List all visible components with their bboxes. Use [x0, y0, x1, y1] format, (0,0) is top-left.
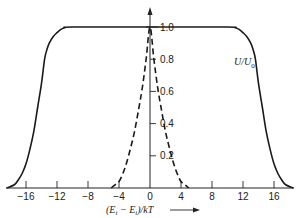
y-tick-label: 0.8 — [160, 54, 174, 65]
x-label-open: (E — [106, 204, 115, 216]
axes — [6, 7, 294, 188]
x-tick-label: −12 — [49, 191, 66, 202]
svg-text:(Et − Ei)/kT: (Et − Ei)/kT — [106, 204, 155, 217]
y-axis-label-sub: 0 — [251, 62, 255, 70]
x-tick-label: −4 — [113, 191, 125, 202]
ticks: −16−12−8−404812160.20.40.60.81.0 — [18, 22, 280, 203]
x-label-mid: − E — [117, 204, 135, 215]
y-axis-label: U/U0 — [234, 56, 255, 70]
x-tick-label: 12 — [237, 191, 249, 202]
x-tick-label: 16 — [268, 191, 280, 202]
x-tick-label: −16 — [18, 191, 35, 202]
x-tick-label: 0 — [147, 191, 153, 202]
x-tick-label: 8 — [209, 191, 215, 202]
y-tick-label: 0.4 — [160, 118, 174, 129]
y-axis-arrow-icon — [148, 7, 153, 15]
x-label-close: )/kT — [136, 204, 155, 216]
x-tick-label: 4 — [178, 191, 184, 202]
x-axis-title: (Et − Ei)/kT — [106, 204, 200, 217]
chart: −16−12−8−404812160.20.40.60.81.0 U/U0 (E… — [0, 0, 298, 218]
x-tick-label: −8 — [82, 191, 94, 202]
y-axis-label-main: U/U — [234, 56, 252, 67]
x-axis-arrow-icon — [193, 208, 200, 213]
y-tick-label: 0.6 — [160, 86, 174, 97]
